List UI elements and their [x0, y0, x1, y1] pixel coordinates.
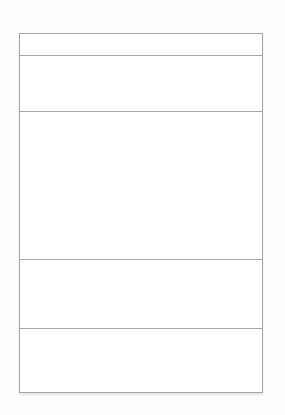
wireframe-panel — [19, 33, 263, 393]
page-background — [0, 0, 285, 415]
upper-band — [20, 56, 262, 112]
header-strip — [20, 34, 262, 56]
lower-band-second — [20, 329, 262, 392]
main-content-area — [20, 112, 262, 260]
lower-band-first — [20, 260, 262, 329]
